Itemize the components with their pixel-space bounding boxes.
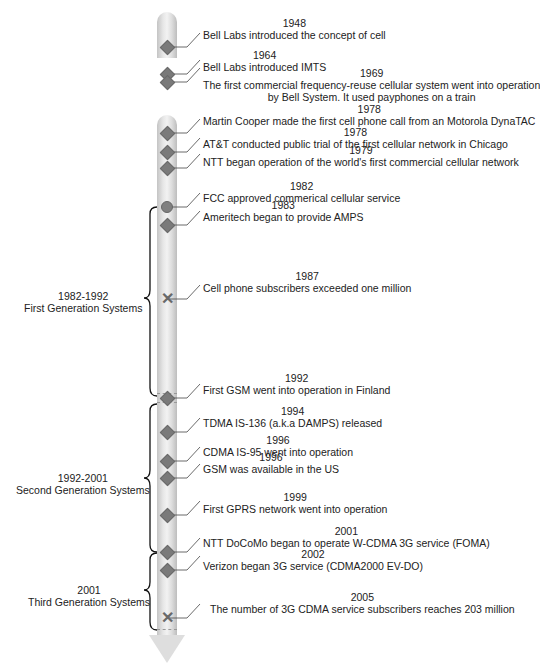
event-1992: 1992 First GSM went into operation in Fi… xyxy=(203,372,390,396)
event-text: TDMA IS-136 (a.k.a DAMPS) released xyxy=(203,417,382,429)
event-year: 1992 xyxy=(203,372,390,384)
event-year: 1978 xyxy=(203,126,508,138)
event-year: 1948 xyxy=(203,17,386,29)
event-year: 2005 xyxy=(210,591,515,603)
event-text: First GSM went into operation in Finland xyxy=(203,384,390,396)
event-text-line2: by Bell System. It used payphones on a t… xyxy=(203,91,540,103)
era-years: 1982-1992 xyxy=(24,290,142,302)
event-1987: 1987 Cell phone subscribers exceeded one… xyxy=(203,270,411,294)
event-2005: 2005 The number of 3G CDMA service subsc… xyxy=(210,591,515,615)
event-text: NTT began operation of the world's first… xyxy=(203,156,519,168)
event-year: 2001 xyxy=(203,525,490,537)
x-marker-2005: ✕ xyxy=(161,610,174,626)
event-1948: 1948 Bell Labs introduced the concept of… xyxy=(203,17,386,41)
event-text: Ameritech began to provide AMPS xyxy=(203,211,364,223)
event-text: Verizon began 3G service (CDMA2000 EV-DO… xyxy=(203,560,423,572)
event-year: 1999 xyxy=(203,491,387,503)
event-2002: 2002 Verizon began 3G service (CDMA2000 … xyxy=(203,548,423,572)
era-years: 1992-2001 xyxy=(16,472,150,484)
event-1983: 1983 Ameritech began to provide AMPS xyxy=(203,199,364,223)
event-year: 2002 xyxy=(203,548,423,560)
event-year: 1969 xyxy=(203,67,540,79)
event-2001: 2001 NTT DoCoMo began to operate W-CDMA … xyxy=(203,525,490,549)
event-text: Cell phone subscribers exceeded one mill… xyxy=(203,282,411,294)
x-marker-1987: ✕ xyxy=(161,291,174,307)
event-text: First GPRS network went into operation xyxy=(203,503,387,515)
era-second-generation: 1992-2001 Second Generation Systems xyxy=(16,472,150,496)
event-year: 1996 xyxy=(203,434,353,446)
era-first-generation: 1982-1992 First Generation Systems xyxy=(24,290,142,314)
event-year: 1994 xyxy=(203,405,382,417)
era-years: 2001 xyxy=(28,584,150,596)
event-1978-cooper: 1978 Martin Cooper made the first cell p… xyxy=(203,103,535,127)
circle-marker-1982 xyxy=(161,201,173,213)
event-text: Bell Labs introduced the concept of cell xyxy=(203,29,386,41)
event-year: 1964 xyxy=(203,49,326,61)
event-1979: 1979 NTT began operation of the world's … xyxy=(203,144,519,168)
event-1996-gsm: 1996 GSM was available in the US xyxy=(203,451,339,475)
event-year: 1983 xyxy=(203,199,364,211)
event-year: 1978 xyxy=(203,103,535,115)
era-label: Third Generation Systems xyxy=(28,596,150,608)
event-year: 1979 xyxy=(203,144,519,156)
era-third-generation: 2001 Third Generation Systems xyxy=(28,584,150,608)
era-label: Second Generation Systems xyxy=(16,484,150,496)
event-year: 1987 xyxy=(203,270,411,282)
event-1994: 1994 TDMA IS-136 (a.k.a DAMPS) released xyxy=(203,405,382,429)
event-1999: 1999 First GPRS network went into operat… xyxy=(203,491,387,515)
event-text: The number of 3G CDMA service subscriber… xyxy=(210,603,515,615)
event-text: GSM was available in the US xyxy=(203,463,339,475)
era-label: First Generation Systems xyxy=(24,302,142,314)
event-year: 1982 xyxy=(203,180,400,192)
event-text: The first commercial frequency-reuse cel… xyxy=(203,79,540,91)
event-year: 1996 xyxy=(203,451,339,463)
event-1969: 1969 The first commercial frequency-reus… xyxy=(203,67,540,103)
